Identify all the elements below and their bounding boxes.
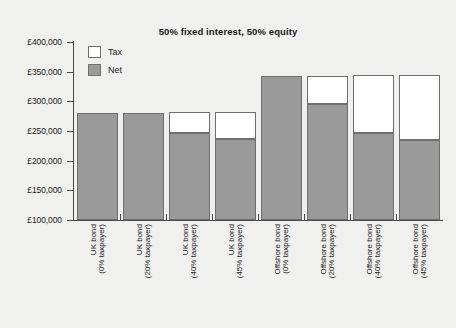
x-axis-label-line2: (40% taxpayer) [190,224,198,320]
bar-segment-net[interactable] [215,139,256,220]
legend-swatch-tax-icon [88,46,101,58]
x-axis-label-line2: (20% taxpayer) [144,224,152,320]
bar-segment-net[interactable] [353,133,394,220]
y-tick-label: £250,000 [27,126,62,136]
x-axis-label-line2: (20% taxpayer) [328,224,336,320]
x-axis-label-line2: (45% taxpayer) [236,224,244,320]
y-tick-mark [67,161,73,162]
legend-label-net: Net [108,65,122,75]
plot-area [74,42,442,220]
bar-group[interactable] [123,42,164,220]
y-tick-label: £150,000 [27,185,62,195]
y-tick-label: £300,000 [27,96,62,106]
x-axis-label: UK bond(45% taxpayer) [228,224,242,320]
bar-segment-tax[interactable] [215,112,256,139]
legend-item-net[interactable]: Net [88,62,122,77]
x-axis-label-line2: (45% taxpayer) [420,224,428,320]
bar-group[interactable] [215,42,256,220]
chart-screenshot: 50% fixed interest, 50% equity £400,000£… [0,0,456,328]
legend-swatch-net-icon [88,64,101,76]
bar-segment-net[interactable] [307,104,348,220]
y-tick-mark [67,220,73,221]
bar-group[interactable] [399,42,440,220]
bar-segment-net[interactable] [399,140,440,220]
y-tick-mark [67,101,73,102]
x-axis-label: Offshore bond(45% taxpayer) [412,224,426,320]
x-axis-label-line2: (0% taxpayer) [282,224,290,320]
x-axis-label: Offshore bond(0% taxpayer) [274,224,288,320]
x-axis-label-line2: (0% taxpayer) [98,224,106,320]
x-axis-label: Offshore bond(20% taxpayer) [320,224,334,320]
y-tick-mark [67,190,73,191]
y-tick-mark [67,131,73,132]
y-tick-label: £350,000 [27,67,62,77]
x-axis-label: UK bond(20% taxpayer) [136,224,150,320]
y-tick-label: £100,000 [27,215,62,225]
bar-segment-net[interactable] [77,113,118,220]
page-title: 50% fixed interest, 50% equity [0,26,456,37]
x-axis-label: Offshore bond(40% taxpayer) [366,224,380,320]
bar-segment-tax[interactable] [169,112,210,133]
bar-segment-tax[interactable] [353,75,394,133]
bar-group[interactable] [307,42,348,220]
x-axis-label: UK bond(0% taxpayer) [90,224,104,320]
y-tick-label: £200,000 [27,156,62,166]
bar-segment-tax[interactable] [307,76,348,104]
bar-group[interactable] [353,42,394,220]
legend-label-tax: Tax [108,47,122,57]
bar-segment-net[interactable] [169,133,210,220]
bar-segment-net[interactable] [123,113,164,220]
y-tick-mark [67,42,73,43]
legend-item-tax[interactable]: Tax [88,44,122,59]
x-axis-label-line2: (40% taxpayer) [374,224,382,320]
bar-segment-net[interactable] [261,76,302,220]
bar-group[interactable] [169,42,210,220]
bar-group[interactable] [261,42,302,220]
y-tick-mark [67,72,73,73]
x-axis-label: UK bond(40% taxpayer) [182,224,196,320]
legend: Tax Net [88,44,122,80]
y-tick-label: £400,000 [27,37,62,47]
bar-segment-tax[interactable] [399,75,440,140]
